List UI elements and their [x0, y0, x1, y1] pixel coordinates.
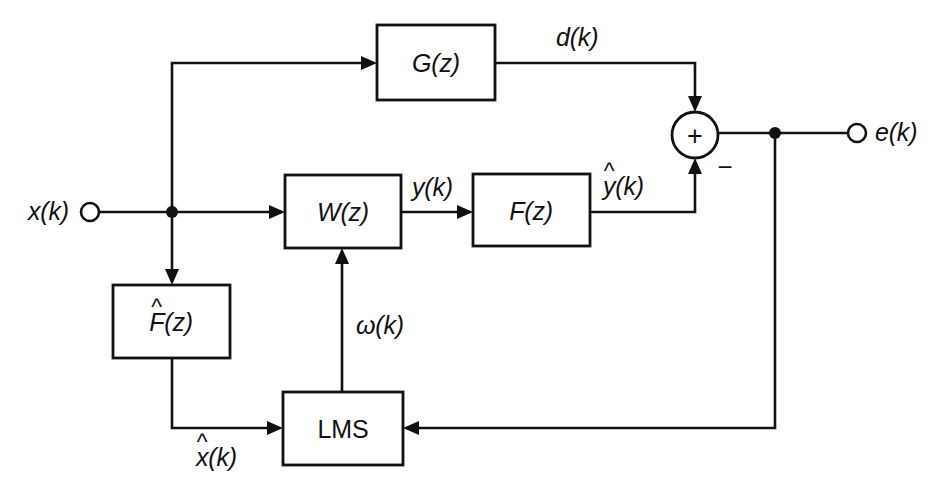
yhat-caret-accent: ^: [604, 160, 615, 183]
terminal-label-x-input: x(k): [28, 199, 69, 224]
block-label-fhat: ^F(z): [149, 310, 193, 335]
signal-label-yhat: ^y(k): [603, 174, 644, 199]
arrow-into-gz: [361, 56, 377, 70]
fhat-caret-accent: ^: [151, 295, 162, 318]
terminal-e-output[interactable]: [848, 124, 866, 142]
arrow-into-lms-right: [403, 421, 419, 435]
signal-label-d: d(k): [556, 25, 598, 50]
summer-plus-sign: +: [687, 121, 703, 152]
block-label-gz: G(z): [412, 51, 460, 76]
terminal-label-e-output: e(k): [875, 120, 917, 145]
xhat-caret-accent: ^: [197, 431, 208, 454]
fhat-to-lms-wire: [172, 358, 273, 428]
e-branch-dot: [769, 127, 781, 139]
block-label-fz: F(z): [509, 199, 553, 224]
fhat-tail: (z): [164, 308, 193, 336]
terminal-x-input[interactable]: [81, 203, 99, 221]
arrow-into-summer-top: [688, 96, 702, 112]
gz-to-summer-wire: [495, 63, 695, 102]
arrow-into-wz-bottom: [335, 248, 349, 264]
block-diagram: G(z) W(z) F(z) ^F(z) LMS x(k) e(k) + − d…: [0, 0, 940, 491]
block-label-wz: W(z): [317, 200, 369, 225]
signal-label-xhat: ^x(k): [196, 445, 237, 470]
block-label-lms: LMS: [318, 417, 369, 442]
arrow-into-fhat: [165, 269, 179, 285]
xhat-base-glyph: ^x: [196, 445, 208, 470]
arrow-into-fz: [457, 205, 473, 219]
yhat-tail: (k): [615, 172, 644, 200]
fhat-base-glyph: ^F: [149, 310, 164, 335]
arrow-into-lms-left: [267, 421, 283, 435]
diagram-canvas: [0, 0, 940, 491]
x-branch-dot: [166, 206, 178, 218]
arrow-into-summer-bottom: [688, 158, 702, 174]
summer-minus-sign: −: [717, 152, 732, 183]
signal-label-omega: ω(k): [356, 313, 404, 338]
arrow-into-wz: [269, 205, 285, 219]
signal-label-y: y(k): [412, 175, 453, 200]
yhat-base-glyph: ^y: [603, 174, 615, 199]
xhat-tail: (k): [208, 443, 237, 471]
